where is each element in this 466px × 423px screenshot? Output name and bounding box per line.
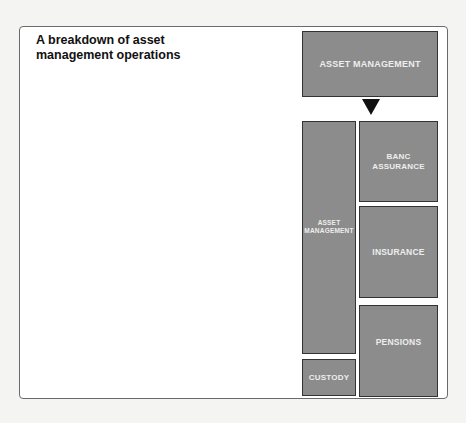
asset-management-top-box: ASSET MANAGEMENT [302,31,438,97]
custody-box: CUSTODY [302,359,356,396]
banc-assurance-label: BANC ASSURANCE [369,152,429,172]
custody-label: CUSTODY [309,373,349,382]
banc-assurance-box: BANC ASSURANCE [359,121,438,202]
insurance-box: INSURANCE [359,206,438,298]
down-arrow-icon [362,99,380,115]
diagram-title: A breakdown of asset management operatio… [36,33,236,63]
asset-management-top-label: ASSET MANAGEMENT [319,59,420,69]
asset-management-box: ASSET MANAGEMENT [302,121,356,354]
pensions-box: PENSIONS [359,305,438,397]
asset-management-label: ASSET MANAGEMENT [303,219,355,235]
insurance-label: INSURANCE [372,247,424,257]
pensions-label: PENSIONS [376,337,422,347]
